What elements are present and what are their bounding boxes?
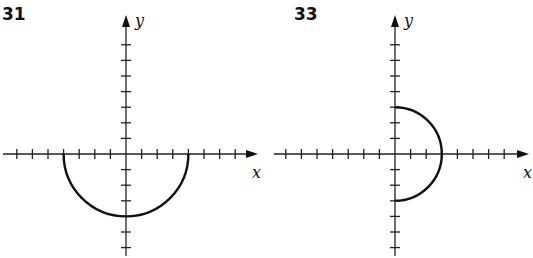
x-axis-arrow-icon	[517, 150, 529, 158]
plot-33: xy	[266, 0, 533, 258]
graph-panel-31: 31 xy	[0, 0, 266, 258]
axes	[3, 23, 250, 256]
x-axis-label: x	[252, 163, 261, 182]
y-axis-label: y	[134, 11, 145, 30]
x-axis-arrow-icon	[246, 150, 258, 158]
x-axis-label: x	[523, 163, 532, 182]
axes	[274, 23, 521, 256]
y-axis-arrow-icon	[391, 15, 399, 27]
plot-31: xy	[0, 0, 266, 258]
graph-panel-33: 33 xy	[266, 0, 533, 258]
y-axis-arrow-icon	[122, 15, 130, 27]
y-axis-label: y	[403, 11, 414, 30]
